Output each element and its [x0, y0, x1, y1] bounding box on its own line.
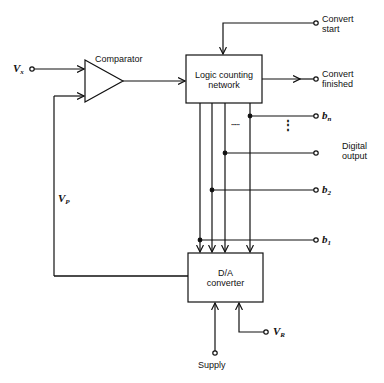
ellipsis-vertical: ⋮	[282, 120, 294, 130]
vp-label: VP	[58, 193, 70, 207]
vx-terminal	[30, 67, 34, 71]
convert-start-label: Convertstart	[322, 14, 354, 34]
supply-label: Supply	[198, 360, 226, 370]
b2-label: b2	[322, 184, 331, 198]
comparator-triangle	[85, 60, 123, 102]
convert-finished-label: Convertfinished	[322, 69, 354, 89]
dac-label: D/Aconverter	[188, 268, 263, 288]
logic-box-label: Logic countingnetwork	[186, 70, 262, 90]
comparator-label: Comparator	[95, 54, 143, 64]
vr-wire	[239, 303, 264, 332]
bn-label: bn	[322, 110, 331, 124]
vr-label: VR	[273, 326, 285, 340]
digital-output-label: Digitaloutput	[342, 141, 367, 161]
b1-label: b1	[322, 234, 331, 248]
convert-start-wire	[223, 23, 314, 54]
vx-label: Vx	[13, 63, 24, 77]
ellipsis-horizontal: ·····	[231, 120, 239, 130]
